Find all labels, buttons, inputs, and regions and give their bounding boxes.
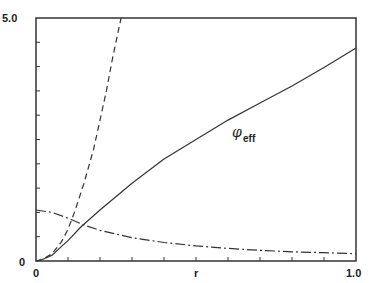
- x-axis-label: r: [194, 267, 199, 279]
- chart: 5.0 0 0 1.0 r φ eff: [0, 0, 378, 283]
- curve-dash-dot: [36, 210, 356, 254]
- phi-eff-annotation: φ eff: [232, 124, 256, 144]
- phi-subscript: eff: [243, 133, 256, 144]
- x-tick-label-left: 0: [33, 267, 39, 279]
- curve-dashed: [36, 18, 121, 261]
- curve-phi_eff: [36, 48, 356, 261]
- y-tick-label-bottom: 0: [19, 256, 25, 268]
- plot-curves: [36, 18, 356, 261]
- x-tick-label-right: 1.0: [346, 267, 361, 279]
- y-tick-label-top: 5.0: [2, 12, 17, 24]
- phi-symbol: φ: [232, 124, 242, 140]
